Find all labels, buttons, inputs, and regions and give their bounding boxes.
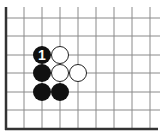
- black-stone: 1: [33, 46, 51, 64]
- go-board-diagram: 1: [0, 0, 166, 138]
- black-stone-icon: [33, 83, 51, 101]
- white-stone: [70, 65, 87, 82]
- black-stone-icon: [33, 64, 51, 82]
- black-stone-icon: [51, 83, 69, 101]
- white-stone: [52, 65, 69, 82]
- white-stone-icon: [70, 65, 87, 82]
- black-stone: [51, 83, 69, 101]
- white-stone: [52, 47, 69, 64]
- move-number-label: 1: [38, 47, 46, 63]
- black-stone: [33, 83, 51, 101]
- white-stone-icon: [52, 47, 69, 64]
- black-stone: [33, 64, 51, 82]
- go-board-canvas: 1: [0, 0, 166, 138]
- white-stone-icon: [52, 65, 69, 82]
